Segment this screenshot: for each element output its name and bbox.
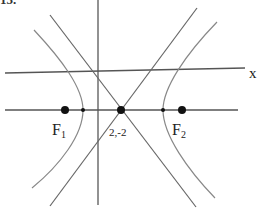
hyperbola-diagram: 15. x F1 F2 2,-2 [0, 0, 258, 211]
focus-2-subscript: 2 [181, 129, 186, 140]
vertex-1-point [81, 108, 85, 112]
focus-2-label: F2 [172, 122, 186, 140]
center-point [117, 106, 125, 114]
focus-2-point [178, 106, 186, 114]
vertex-2-point [161, 108, 165, 112]
diagram-canvas [0, 0, 258, 211]
hyperbola-left-branch [32, 30, 83, 188]
focus-2-name: F [172, 121, 181, 138]
x-axis [5, 68, 245, 73]
x-axis-label: x [249, 66, 257, 81]
focus-1-point [61, 106, 69, 114]
focus-1-name: F [52, 121, 61, 138]
center-label: 2,-2 [109, 127, 126, 138]
problem-number: 15. [0, 0, 16, 6]
focus-1-label: F1 [52, 122, 66, 140]
focus-1-subscript: 1 [61, 129, 66, 140]
